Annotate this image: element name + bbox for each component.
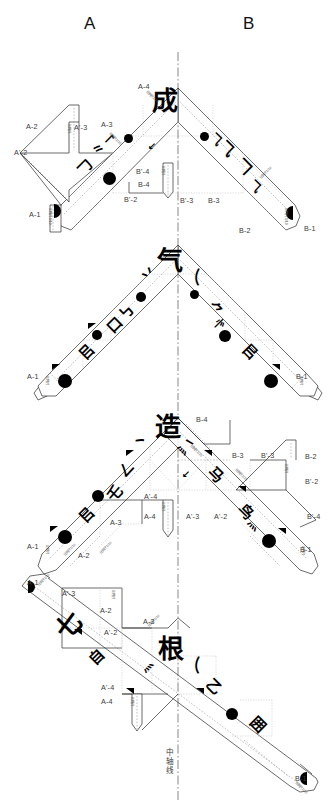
part-label-a-4: A-4 bbox=[138, 82, 150, 91]
diagram-linework: .s {fill:none;stroke:#2b2b2b;stroke-widt… bbox=[0, 0, 336, 808]
part-label-a-2: A-2 bbox=[26, 122, 38, 131]
part-label-b-4: B'-4 bbox=[307, 512, 320, 521]
part-label-a-2: A'-2 bbox=[14, 148, 27, 157]
part-label-a-1: A-1 bbox=[29, 210, 41, 219]
part-label-b-3: B-3 bbox=[208, 196, 220, 205]
part-label-b-3: B-3 bbox=[232, 451, 244, 460]
part-label-a-2: A-2 bbox=[100, 606, 112, 615]
part-label-b-3: B'-3 bbox=[261, 451, 274, 460]
part-label-a-2: A'-2 bbox=[214, 512, 227, 521]
part-label-a-3: A-3 bbox=[110, 518, 122, 527]
ink-dot bbox=[124, 134, 133, 143]
diagram-canvas: .s {fill:none;stroke:#2b2b2b;stroke-widt… bbox=[0, 0, 336, 808]
ink-dot bbox=[103, 172, 116, 185]
axis-caption-char: 中 bbox=[165, 748, 174, 757]
ink-dot bbox=[200, 132, 209, 141]
part-label-b-3: B'-3 bbox=[180, 196, 193, 205]
header-label-a: A bbox=[84, 14, 96, 34]
part-label-a-3: A-3 bbox=[143, 617, 155, 626]
part-label-b-2: B'-2 bbox=[124, 195, 137, 204]
part-label-b-4: B'-4 bbox=[136, 167, 149, 176]
center-axis-caption: 中轴线 bbox=[165, 748, 177, 775]
part-label-a-3: A-3 bbox=[101, 120, 113, 129]
panel-2-character: 气 bbox=[157, 248, 183, 274]
part-label-b-4: B-4 bbox=[138, 180, 150, 189]
part-label-b-2: B-2 bbox=[305, 452, 317, 461]
header-label-b: B bbox=[243, 14, 255, 34]
axis-caption-char: 线 bbox=[165, 766, 174, 775]
part-label-a-1: A-1 bbox=[27, 542, 39, 551]
part-label-a-4: A'-4 bbox=[101, 683, 114, 692]
part-label-a-4: A-4 bbox=[101, 697, 113, 706]
axis-caption-char: 轴 bbox=[165, 757, 174, 766]
part-label-b-1: B-1 bbox=[300, 545, 312, 554]
part-label-b-2: B-2 bbox=[239, 226, 251, 235]
part-label-a-3: A'-3 bbox=[74, 123, 87, 132]
part-label-a-2: A'-2 bbox=[104, 628, 117, 637]
part-label-a-2: A-2 bbox=[78, 551, 90, 560]
part-label-b-4: B-4 bbox=[196, 415, 208, 424]
part-label-a-3: A'-3 bbox=[186, 512, 199, 521]
part-label-a-3: A'-3 bbox=[62, 589, 75, 598]
part-label-b-1: B-1 bbox=[295, 774, 307, 783]
panel-4-character: 根 bbox=[158, 636, 184, 662]
part-label-b-2: B'-2 bbox=[305, 477, 318, 486]
part-label-a-1: A-1 bbox=[27, 578, 39, 587]
part-label-a-4: A-4 bbox=[144, 512, 156, 521]
panel-3-character: 造 bbox=[155, 414, 181, 440]
part-label-a-1: A-1 bbox=[27, 372, 39, 381]
part-label-b-1: B-1 bbox=[296, 372, 308, 381]
part-label-b-1: B-1 bbox=[304, 224, 316, 233]
part-label-a-4: A'-4 bbox=[144, 492, 157, 501]
